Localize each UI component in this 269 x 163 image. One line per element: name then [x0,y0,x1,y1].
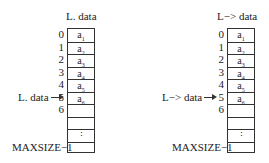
array-cell: a2 [228,42,254,55]
right-array-diagram: L−> data 0 1 2 3 4 5 6 L−> data MAXSIZE−… [0,0,269,163]
right-array-title: L−> data [217,10,257,22]
right-array-box: a1 a2 a3 a4 a5 a6 ⋮ [227,28,255,153]
array-cell-last [228,142,254,155]
max-index-label: MAXSIZE−1 [172,141,233,154]
pointer-text: L−> data [162,91,202,103]
arrow-right-icon [204,97,215,98]
index-label: 2 [210,53,224,66]
index-label: 1 [210,41,224,54]
array-cell: a4 [228,67,254,80]
index-label: 6 [210,103,224,116]
array-cell: a3 [228,54,254,67]
array-cell: a1 [228,29,254,42]
ellipsis-cell: ⋮ [228,129,254,142]
array-cell-empty [228,104,254,117]
array-cell: a6 [228,92,254,105]
index-label: 0 [210,28,224,41]
pointer-label: L−> data [162,91,215,104]
index-label: 4 [210,78,224,91]
index-label: 3 [210,66,224,79]
array-cell: a5 [228,79,254,92]
